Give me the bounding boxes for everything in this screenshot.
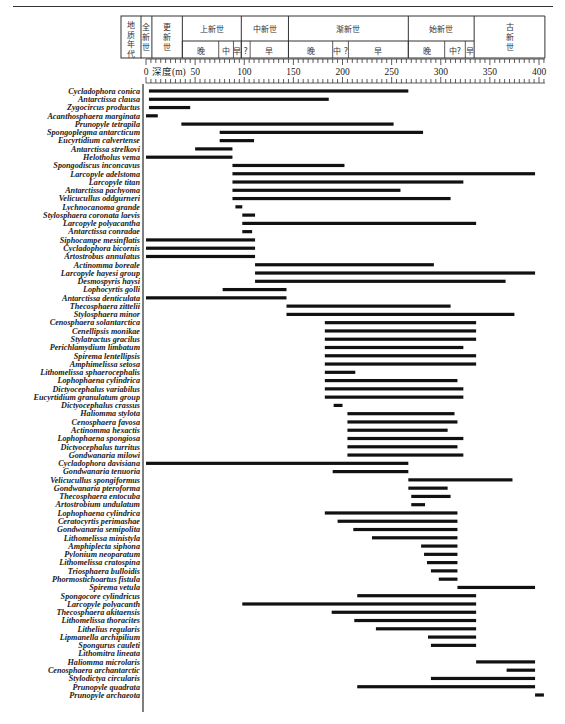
range-bar: [411, 495, 450, 498]
range-bar: [242, 222, 476, 225]
range-bar: [421, 544, 457, 547]
x-tick-label: 250: [385, 67, 400, 77]
range-bar: [357, 685, 535, 688]
species-label: Prunopyle archaeota: [69, 691, 140, 700]
x-tick-label: 100: [237, 67, 252, 77]
x-tick-label: 400: [532, 67, 547, 77]
stage-label: 中: [222, 46, 230, 56]
range-bar: [325, 396, 464, 399]
stage-label: 晚: [307, 46, 315, 56]
range-bar: [431, 644, 476, 647]
range-bar: [325, 379, 458, 382]
range-bar: [325, 354, 476, 357]
range-bar: [325, 346, 464, 349]
range-bar: [235, 205, 242, 208]
era-label-char: 质: [127, 30, 135, 40]
x-tick-label: 200: [335, 67, 350, 77]
range-bar: [424, 553, 457, 556]
range-bar: [255, 263, 434, 266]
x-tick-label: 50: [190, 67, 200, 77]
range-bar: [149, 106, 190, 109]
range-bar: [347, 453, 463, 456]
range-bar: [347, 420, 457, 423]
epoch-label-char: 新: [142, 32, 150, 42]
stage-label: 中 ?: [333, 46, 348, 56]
range-bar: [232, 164, 344, 167]
stage-label: 早: [233, 47, 241, 56]
range-bar: [439, 578, 458, 581]
range-bar: [325, 329, 476, 332]
epoch-label-char: 全: [142, 22, 150, 32]
range-bar: [325, 321, 476, 324]
era-label-char: 代: [127, 49, 135, 59]
range-bar: [535, 693, 544, 696]
range-bar: [223, 288, 287, 291]
range-bar: [146, 255, 255, 258]
x-axis-label: 深度(m): [152, 66, 186, 78]
range-bar: [220, 131, 423, 134]
range-bar: [353, 528, 457, 531]
range-bar: [242, 214, 255, 217]
range-bar: [232, 189, 400, 192]
stage-label: ?: [244, 47, 248, 56]
range-bar: [242, 230, 252, 233]
range-bar: [149, 98, 329, 101]
stage-label: 晚: [197, 46, 205, 56]
range-bar: [431, 677, 535, 680]
epoch-label-char: 世: [163, 42, 171, 52]
epoch-label: 中新世: [253, 24, 277, 34]
x-tick-label: 150: [286, 67, 301, 77]
epoch-label-char: 世: [142, 42, 150, 52]
range-bar: [333, 470, 409, 473]
stage-label: 中?: [449, 46, 461, 56]
range-bar: [325, 387, 464, 390]
range-bar: [146, 296, 286, 299]
range-bar: [242, 602, 476, 605]
range-bar: [146, 462, 408, 465]
range-bar: [338, 520, 458, 523]
range-bar: [181, 122, 393, 125]
epoch-label: 始新世: [429, 24, 453, 34]
range-bar: [255, 271, 535, 274]
epoch-label: 渐新世: [336, 24, 360, 34]
range-bar: [347, 429, 447, 432]
range-bar: [149, 89, 408, 92]
range-bar: [354, 619, 476, 622]
epoch-label-char: 世: [506, 42, 514, 52]
range-bar: [232, 172, 535, 175]
range-bar: [325, 511, 458, 514]
x-tick-label: 350: [483, 67, 498, 77]
range-bar: [325, 338, 476, 341]
range-bar: [411, 503, 425, 506]
range-bar: [286, 313, 514, 316]
epoch-label-char: 新: [163, 32, 171, 42]
range-bar: [146, 156, 232, 159]
range-bar: [476, 660, 535, 663]
stage-label: 晚: [423, 46, 431, 56]
range-bar: [372, 536, 457, 539]
range-bar: [232, 180, 463, 183]
x-tick-label: 0: [144, 67, 149, 77]
range-bar: [428, 635, 476, 638]
range-bar: [220, 139, 254, 142]
range-bar: [146, 247, 255, 250]
range-bar: [507, 669, 535, 672]
range-bar: [431, 569, 458, 572]
x-tick-label: 300: [434, 67, 449, 77]
range-bar: [232, 197, 450, 200]
epoch-label-char: 更: [163, 23, 171, 32]
range-bar: [376, 627, 476, 630]
range-bar: [332, 611, 476, 614]
range-bar: [408, 487, 447, 490]
range-bar: [195, 147, 232, 150]
range-bar: [334, 404, 343, 407]
range-bar: [255, 280, 506, 283]
epoch-label-char: 新: [506, 32, 514, 42]
epoch-label: 上新世: [200, 24, 224, 34]
range-bar: [325, 371, 355, 374]
chart-header: 地质年代全新世更新世上新世中新世渐新世始新世古新世晚中早?早晚中 ?早晚中?早: [121, 16, 545, 59]
range-bar: [347, 445, 457, 448]
epoch-label-char: 古: [506, 22, 514, 32]
range-bar: [347, 437, 463, 440]
range-bar: [427, 561, 457, 564]
